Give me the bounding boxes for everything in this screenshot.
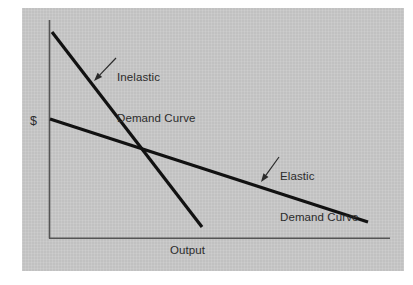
inelastic-demand-curve-label: Inelastic Demand Curve: [117, 44, 196, 152]
elastic-label-line-1: Elastic: [280, 170, 359, 184]
inelastic-label-line-1: Inelastic: [117, 71, 196, 85]
y-axis-label: $: [30, 115, 37, 129]
elastic-demand-curve-label: Elastic Demand Curve: [280, 143, 359, 251]
x-axis-label: Output: [170, 244, 205, 258]
elastic-label-line-2: Demand Curve: [280, 211, 359, 225]
inelastic-label-line-2: Demand Curve: [117, 112, 196, 126]
figure-root: Inelastic Demand Curve Elastic Demand Cu…: [0, 0, 413, 285]
